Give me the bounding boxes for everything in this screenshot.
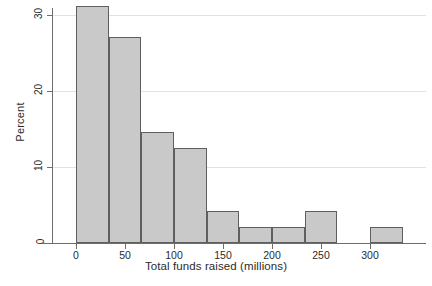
x-axis-title-text: Total funds raised (millions)	[145, 260, 287, 272]
y-axis-tick	[47, 91, 52, 92]
histogram-bar	[239, 227, 272, 243]
x-axis-tick-label: 300	[350, 249, 390, 261]
histogram-bar	[76, 6, 109, 243]
x-axis-tick-label: 250	[301, 249, 341, 261]
y-axis-tick-label: 30	[33, 8, 44, 19]
histogram-bar	[370, 227, 403, 243]
y-axis-tick	[47, 15, 52, 16]
histogram-bar	[305, 211, 338, 243]
x-axis-tick-label-text: 100	[165, 249, 183, 261]
y-axis-tick-label: 10	[33, 160, 44, 171]
histogram-figure: Percent 0102030 Total funds raised (mill…	[0, 0, 432, 286]
plot-inner	[52, 8, 426, 243]
x-axis-tick-label-text: 150	[214, 249, 232, 261]
x-axis-tick-label-text: 200	[263, 249, 281, 261]
x-axis-tick-label-text: 0	[73, 249, 79, 261]
y-axis-tick-label-text: 20	[33, 84, 44, 95]
y-axis-spine: 0102030	[52, 8, 53, 244]
x-axis-tick-label: 100	[154, 249, 194, 261]
y-axis-tick-label: 20	[33, 84, 44, 95]
y-axis-tick-label-text: 30	[33, 8, 44, 19]
x-axis-tick-label: 50	[105, 249, 145, 261]
x-axis-tick-label-text: 250	[312, 249, 330, 261]
plot-area	[52, 8, 426, 243]
x-axis-spine	[42, 243, 426, 244]
x-axis-tick-label: 200	[252, 249, 292, 261]
y-axis-title: Percent	[10, 0, 30, 243]
x-axis-title: Total funds raised (millions)	[0, 260, 432, 272]
y-axis-tick-label-text: 10	[33, 160, 44, 171]
histogram-bar	[207, 211, 240, 243]
x-axis-tick-label: 150	[203, 249, 243, 261]
x-axis-tick-label-text: 300	[361, 249, 379, 261]
histogram-bar	[109, 37, 142, 243]
histogram-bar	[174, 148, 207, 243]
histogram-bar	[141, 132, 174, 243]
y-axis-tick-label: 0	[38, 236, 44, 247]
x-axis-tick-label-text: 50	[119, 249, 131, 261]
x-axis-tick-label: 0	[56, 249, 96, 261]
y-axis-tick	[47, 167, 52, 168]
y-axis-title-text: Percent	[14, 102, 26, 141]
histogram-bar	[272, 227, 305, 243]
